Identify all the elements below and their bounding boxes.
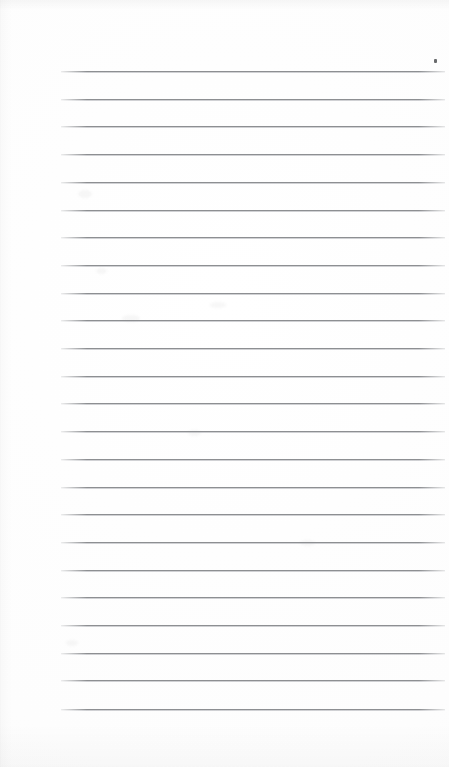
notepad-page bbox=[0, 0, 449, 767]
ruled-line bbox=[61, 680, 445, 681]
ruled-line bbox=[61, 265, 445, 266]
ruled-line bbox=[61, 514, 445, 515]
ruled-line bbox=[61, 237, 445, 238]
ruled-line bbox=[61, 71, 445, 72]
ruled-line bbox=[61, 99, 445, 100]
ruled-line bbox=[61, 126, 445, 127]
ruled-line bbox=[61, 653, 445, 654]
ruled-line bbox=[61, 487, 445, 488]
ruled-line bbox=[61, 597, 445, 598]
ruled-line bbox=[61, 709, 445, 710]
ruled-line bbox=[61, 376, 445, 377]
ruled-line bbox=[61, 182, 445, 183]
ruled-line bbox=[61, 625, 445, 626]
ruled-line bbox=[61, 403, 445, 404]
ruled-writing-area[interactable] bbox=[0, 0, 449, 767]
ruled-line bbox=[61, 431, 445, 432]
ruled-line bbox=[61, 293, 445, 294]
ruled-line bbox=[61, 459, 445, 460]
ruled-line bbox=[61, 570, 445, 571]
ruled-line bbox=[61, 154, 445, 155]
ruled-line bbox=[61, 320, 445, 321]
ruled-line bbox=[61, 210, 445, 211]
ruled-line bbox=[61, 542, 445, 543]
ruled-line bbox=[61, 348, 445, 349]
ink-speck bbox=[434, 59, 437, 63]
